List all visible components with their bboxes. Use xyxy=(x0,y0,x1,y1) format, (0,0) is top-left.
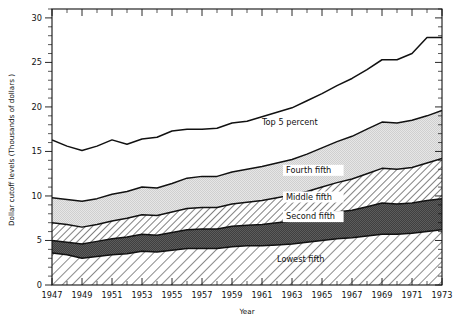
x-tick-label: 1959 xyxy=(222,290,243,300)
x-tick-label: 1957 xyxy=(192,290,213,300)
income-distribution-chart: 051015202530 194719491951195319551957195… xyxy=(0,0,466,320)
y-tick-label: 5 xyxy=(37,235,42,245)
x-tick-label: 1951 xyxy=(102,290,123,300)
band-label-fourth: Fourth fifth xyxy=(286,165,331,175)
y-tick-label: 15 xyxy=(32,146,42,156)
band-label-second: Second fifth xyxy=(286,211,335,221)
x-tick-label: 1973 xyxy=(432,290,453,300)
x-tick-label: 1965 xyxy=(312,290,333,300)
y-tick-label: 25 xyxy=(32,57,42,67)
band-label-lowest: Lowest fifth xyxy=(277,254,325,264)
x-tick-label: 1949 xyxy=(72,290,93,300)
y-tick-label: 0 xyxy=(37,280,42,290)
y-tick-label: 10 xyxy=(32,191,42,201)
chart-canvas: 051015202530 194719491951195319551957195… xyxy=(0,0,466,320)
x-tick-label: 1963 xyxy=(282,290,303,300)
band-label-middle: Middle fifth xyxy=(286,192,332,202)
x-tick-label: 1947 xyxy=(42,290,63,300)
x-tick-label: 1961 xyxy=(252,290,273,300)
y-axis-title: Dollar cutoff levels (Thousands of dolla… xyxy=(7,74,16,226)
x-tick-label: 1967 xyxy=(342,290,363,300)
x-tick-label: 1971 xyxy=(402,290,423,300)
y-tick-label: 20 xyxy=(32,102,42,112)
x-tick-label: 1955 xyxy=(162,290,183,300)
x-axis-title: Year xyxy=(238,307,254,316)
y-tick-label: 30 xyxy=(32,13,42,23)
x-tick-label: 1953 xyxy=(132,290,153,300)
x-tick-label: 1969 xyxy=(372,290,393,300)
band-label-top5: Top 5 percent xyxy=(261,117,318,127)
